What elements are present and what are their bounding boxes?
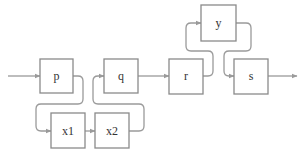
node-label: s <box>249 69 254 83</box>
node-x2: x2 <box>95 113 129 148</box>
node-s: s <box>234 59 268 94</box>
node-label: x1 <box>62 124 74 138</box>
node-label: r <box>184 69 188 83</box>
node-label: q <box>118 69 124 83</box>
node-label: y <box>216 16 222 30</box>
node-label: x2 <box>106 124 118 138</box>
node-p: p <box>40 59 73 93</box>
node-x1: x1 <box>51 113 85 148</box>
flow-diagram: p q r y s x1 x2 <box>0 0 300 158</box>
node-label: p <box>54 69 60 83</box>
node-r: r <box>169 59 203 94</box>
node-q: q <box>104 59 138 93</box>
node-y: y <box>201 5 236 41</box>
